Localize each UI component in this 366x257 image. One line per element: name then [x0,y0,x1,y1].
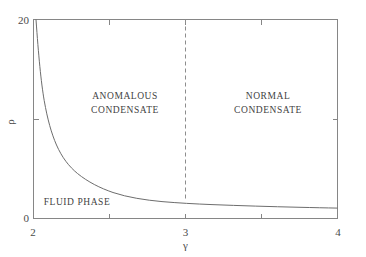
anomalous-condensate-label-line2: CONDENSATE [91,105,159,115]
x-axis-mid-label: 3 [183,226,189,238]
x-axis-max-label: 4 [335,226,341,238]
normal-condensate-label: NORMAL CONDENSATE [234,91,302,115]
y-axis-title: ρ [4,119,16,125]
normal-condensate-label-line1: NORMAL [246,91,290,101]
anomalous-condensate-label: ANOMALOUS CONDENSATE [91,91,159,115]
y-axis-max-label: 20 [18,14,30,26]
normal-condensate-label-line2: CONDENSATE [234,105,302,115]
fluid-phase-label: FLUID PHASE [44,197,111,207]
phase-diagram-svg: 20 0 ρ 2 3 4 γ ANOMALOUS CONDENSATE NORM… [0,0,366,257]
x-axis-title: γ [182,239,188,251]
anomalous-condensate-label-line1: ANOMALOUS [92,91,158,101]
y-axis-min-label: 0 [24,212,30,224]
phase-diagram-figure: 20 0 ρ 2 3 4 γ ANOMALOUS CONDENSATE NORM… [0,0,366,257]
x-axis-min-label: 2 [30,226,36,238]
